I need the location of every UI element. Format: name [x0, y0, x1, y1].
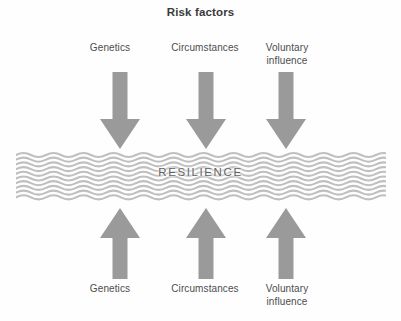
bottom-label-voluntary-influence: Voluntary influence — [251, 283, 323, 308]
resilience-wave-band — [16, 151, 386, 201]
resilience-diagram: Risk factors Genetics Circumstances Volu… — [0, 0, 401, 321]
top-label-genetics: Genetics — [70, 42, 150, 55]
page-title: Risk factors — [0, 6, 401, 18]
bottom-label-circumstances: Circumstances — [152, 283, 258, 296]
top-label-circumstances: Circumstances — [152, 42, 258, 55]
top-label-row: Genetics Circumstances Voluntary influen… — [0, 42, 401, 76]
bottom-label-row: Genetics Circumstances Voluntary influen… — [0, 283, 401, 317]
up-arrow-voluntary-influence — [265, 208, 307, 280]
down-arrow-voluntary-influence — [265, 72, 307, 150]
bottom-label-genetics: Genetics — [70, 283, 150, 296]
down-arrow-circumstances — [185, 72, 227, 150]
up-arrow-genetics — [99, 208, 141, 280]
down-arrow-genetics — [99, 72, 141, 150]
top-label-voluntary-influence: Voluntary influence — [251, 42, 323, 67]
up-arrow-circumstances — [185, 208, 227, 280]
